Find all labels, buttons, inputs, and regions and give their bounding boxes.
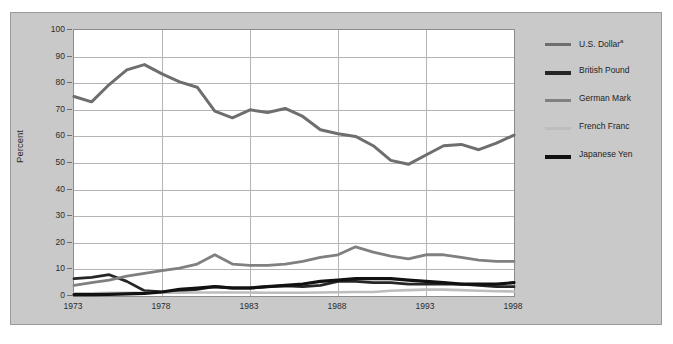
chart-figure: Percent 0102030405060708090100 197319781… [0,0,673,344]
series-lines [74,30,516,298]
legend-label: U.S. Dollara [579,38,623,48]
x-axis-tick-label: 1998 [504,302,523,311]
y-axis-tick-mark [67,29,72,30]
y-axis-tick-label: 10 [25,264,65,273]
y-axis-tick-label: 30 [25,211,65,220]
legend-swatch [545,43,571,46]
legend-item: Japanese Yen [545,147,655,175]
legend-swatch [545,155,571,159]
y-axis-tick-mark [67,189,72,190]
y-axis-tick-mark [67,295,72,296]
legend-swatch [545,99,571,102]
y-axis-tick-mark [67,268,72,269]
y-axis-tick-label: 100 [25,25,65,34]
y-axis-tick-mark [67,162,72,163]
legend-swatch [545,71,571,75]
series-line [74,247,514,286]
y-axis-tick-mark [67,82,72,83]
legend-footnote-marker: a [620,38,623,44]
y-axis-tick-label: 60 [25,131,65,140]
legend-item: U.S. Dollara [545,35,655,63]
legend-swatch [545,127,571,130]
x-axis-tick-label: 1983 [240,302,259,311]
y-axis-tick-mark [67,135,72,136]
y-axis-tick-mark [67,242,72,243]
chart-legend: U.S. DollaraBritish PoundGerman MarkFren… [545,35,655,175]
legend-item: French Franc [545,119,655,147]
legend-label: German Mark [579,94,631,103]
legend-item: German Mark [545,91,655,119]
y-axis-label: Percent [14,130,25,163]
legend-label: French Franc [579,122,630,131]
y-axis-tick-mark [67,215,72,216]
y-axis-tick-label: 70 [25,105,65,114]
legend-label: Japanese Yen [579,150,632,159]
series-line [74,65,514,165]
legend-label: British Pound [579,66,630,75]
page-footnote [150,334,570,342]
y-axis-tick-label: 0 [25,291,65,300]
plot-area [73,29,515,297]
y-axis-tick-label: 20 [25,238,65,247]
y-axis-tick-label: 90 [25,52,65,61]
y-axis-tick-label: 80 [25,78,65,87]
x-axis-tick-label: 1973 [64,302,83,311]
y-axis-tick-label: 40 [25,185,65,194]
x-axis-tick-label: 1978 [152,302,171,311]
figure-panel: Percent 0102030405060708090100 197319781… [10,12,662,325]
x-axis-tick-label: 1988 [328,302,347,311]
y-axis-tick-label: 50 [25,158,65,167]
y-axis-tick-mark [67,109,72,110]
y-axis-tick-mark [67,56,72,57]
x-axis-tick-label: 1993 [416,302,435,311]
legend-item: British Pound [545,63,655,91]
